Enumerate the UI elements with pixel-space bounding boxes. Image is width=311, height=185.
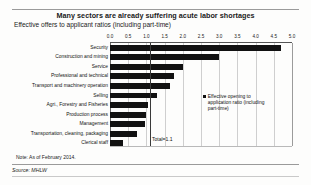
category-label: Transport and machinery operation	[32, 83, 108, 89]
bar-row	[110, 112, 292, 118]
chart-source: Source: MHLW	[12, 167, 47, 173]
category-label: Construction and mining	[55, 54, 108, 60]
x-axis-tick-labels: 0.00.51.01.52.02.53.03.54.04.55.0	[110, 34, 292, 42]
bar-chart: 0.00.51.01.52.02.53.03.54.04.55.0 Securi…	[110, 42, 292, 147]
bar-row	[110, 131, 292, 137]
bar	[110, 73, 174, 79]
category-label: Transportation, cleaning, packaging	[31, 131, 108, 137]
legend-swatch	[203, 95, 207, 99]
bar-row	[110, 64, 292, 70]
top-divider	[12, 9, 299, 10]
total-average-line	[150, 43, 151, 146]
bar-row	[110, 45, 292, 51]
bar	[110, 64, 183, 70]
bar	[110, 83, 170, 89]
x-axis-tick-label: 2.0	[180, 34, 186, 39]
x-axis-tick-label: 3.0	[216, 34, 222, 39]
bar	[110, 45, 281, 51]
x-axis-tick-label: 5.0	[289, 34, 295, 39]
legend-label: Effective opening to application ratio (…	[208, 94, 265, 112]
category-label: Service	[92, 64, 108, 70]
slide: Many sectors are already suffering acute…	[0, 0, 311, 185]
x-axis-tick-label: 2.5	[198, 34, 204, 39]
bar	[110, 112, 146, 118]
bar-row	[110, 54, 292, 60]
bar	[110, 140, 123, 146]
x-axis-tick-label: 3.5	[234, 34, 240, 39]
legend: Effective opening to application ratio (…	[203, 94, 265, 112]
category-label: Selling	[93, 93, 108, 99]
x-axis-tick-label: 1.5	[161, 34, 167, 39]
bar-row	[110, 83, 292, 89]
x-axis-tick-label: 0.5	[125, 34, 131, 39]
bar	[110, 121, 145, 127]
category-label: Production process	[66, 112, 108, 118]
footer-divider	[12, 176, 299, 177]
category-label: Clerical staff	[81, 140, 108, 146]
chart-note: Note: As of February 2014.	[16, 154, 76, 160]
x-axis-tick-label: 0.0	[107, 34, 113, 39]
gridline	[292, 43, 293, 146]
total-annotation: Total=1.1	[152, 136, 172, 142]
x-axis-tick-label: 1.0	[143, 34, 149, 39]
category-label: Management	[79, 121, 108, 127]
x-axis-tick-label: 4.5	[271, 34, 277, 39]
bar-row	[110, 121, 292, 127]
x-axis-tick-label: 4.0	[252, 34, 258, 39]
bar	[110, 102, 148, 108]
bar-row	[110, 140, 292, 146]
category-label: Professional and technical	[51, 73, 108, 79]
bar-row	[110, 73, 292, 79]
category-label: Security	[90, 45, 108, 51]
bar	[110, 131, 137, 137]
plot-area: SecurityConstruction and miningServicePr…	[110, 42, 292, 147]
chart-subtitle: Effective offers to applicant ratios (in…	[14, 21, 171, 29]
bottom-divider	[12, 164, 299, 165]
bar	[110, 54, 219, 60]
category-label: Agri., Forestry and Fisheries	[47, 102, 108, 108]
page-title: Many sectors are already suffering acute…	[12, 11, 299, 20]
